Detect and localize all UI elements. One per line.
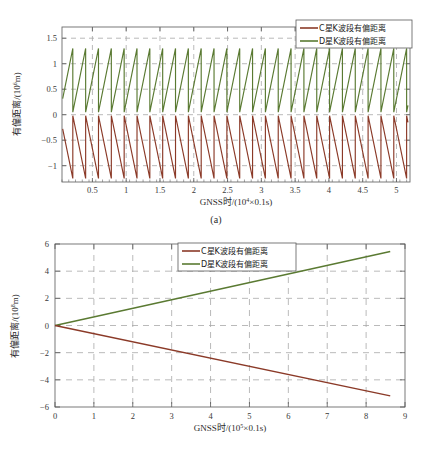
chart-b-ytick-label: −2 bbox=[40, 348, 49, 358]
chart-a-ytick-label: 0.5 bbox=[46, 84, 57, 94]
plot-area-b: 6420−2−4−60123456789 GNSS时/(105×0.1s) 有偏… bbox=[0, 232, 432, 465]
chart-b-xtick-label: 3 bbox=[170, 411, 174, 421]
chart-a-ytick-label: 1.5 bbox=[46, 33, 57, 43]
chart-a-xtick-label: 1.5 bbox=[155, 185, 166, 195]
chart-a-ytick-label: −1 bbox=[48, 161, 57, 171]
chart-b-xtick-label: 9 bbox=[403, 411, 407, 421]
figure-panel-b: 6420−2−4−60123456789 GNSS时/(105×0.1s) 有偏… bbox=[0, 232, 432, 465]
chart-b-xtick-label: 5 bbox=[247, 411, 251, 421]
chart-b-xtick-label: 6 bbox=[286, 411, 290, 421]
chart-b-ytick-label: −4 bbox=[40, 375, 50, 385]
chart-b-svg: 6420−2−4−60123456789 GNSS时/(105×0.1s) 有偏… bbox=[0, 232, 432, 465]
chart-a-xtick-label: 1 bbox=[124, 185, 128, 195]
chart-a-legend-label-c: C星K波段有偏距离 bbox=[319, 23, 386, 33]
chart-b-xtick-label: 4 bbox=[208, 411, 213, 421]
chart-a-ytick-label: 0 bbox=[53, 110, 57, 120]
chart-a-svg: 1.510.50−0.5−10.511.522.533.544.55 GNSS时… bbox=[0, 0, 432, 232]
chart-a-xtick-label: 5 bbox=[394, 185, 398, 195]
chart-a-xtick-label: 3.5 bbox=[290, 185, 301, 195]
chart-b-xtick-label: 8 bbox=[364, 411, 368, 421]
chart-a-caption: (a) bbox=[0, 214, 432, 225]
chart-b-xtick-label: 7 bbox=[325, 411, 329, 421]
figure-panel-a: 1.510.50−0.5−10.511.522.533.544.55 GNSS时… bbox=[0, 0, 432, 232]
chart-a-legend: C星K波段有偏距离 D星K波段有偏距离 bbox=[296, 20, 412, 48]
chart-a-ytick-label: 1 bbox=[53, 59, 57, 69]
chart-b-xtick-label: 2 bbox=[131, 411, 135, 421]
chart-b-legend: C星K波段有偏距离 D星K波段有偏距离 bbox=[178, 243, 296, 271]
chart-a-xaxis-label: GNSS时/(104×0.1s) bbox=[200, 196, 272, 207]
chart-a-xtick-label: 4 bbox=[327, 185, 332, 195]
chart-b-ytick-label: 4 bbox=[45, 266, 50, 276]
chart-b-ytick-label: −6 bbox=[40, 402, 49, 412]
chart-b-xaxis-label: GNSS时/(105×0.1s) bbox=[194, 422, 266, 433]
chart-a-yaxis-label: 有偏距离/(106m) bbox=[11, 72, 22, 136]
chart-b-legend-label-c: C星K波段有偏距离 bbox=[201, 246, 268, 256]
chart-b-ytick-label: 6 bbox=[45, 239, 49, 249]
chart-a-xtick-label: 2 bbox=[192, 185, 196, 195]
plot-area-a: 1.510.50−0.5−10.511.522.533.544.55 GNSS时… bbox=[0, 0, 432, 232]
chart-a-xtick-label: 4.5 bbox=[357, 185, 368, 195]
chart-a-xtick-label: 0.5 bbox=[87, 185, 98, 195]
chart-b-xtick-label: 0 bbox=[53, 411, 57, 421]
chart-b-legend-label-d: D星K波段有偏距离 bbox=[201, 259, 268, 269]
chart-b-yaxis-label: 有偏距离/(108m) bbox=[9, 294, 20, 358]
chart-b-ytick-label: 2 bbox=[45, 293, 49, 303]
chart-a-legend-label-d: D星K波段有偏距离 bbox=[319, 36, 386, 46]
chart-b-xtick-label: 1 bbox=[92, 411, 96, 421]
chart-b-ytick-label: 0 bbox=[45, 321, 49, 331]
chart-a-xtick-label: 3 bbox=[259, 185, 263, 195]
chart-a-ytick-label: −0.5 bbox=[42, 135, 57, 145]
chart-a-xtick-label: 2.5 bbox=[222, 185, 233, 195]
